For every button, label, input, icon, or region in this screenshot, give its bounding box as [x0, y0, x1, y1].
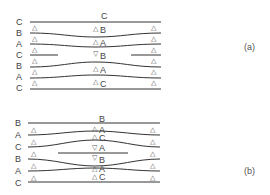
layer-label: B [15, 154, 21, 164]
triangle-down-icon: ▽ [92, 154, 98, 162]
triangle-up-icon: △ [31, 150, 37, 158]
triangle-up-icon: △ [150, 174, 156, 182]
triangle-up-icon: △ [31, 174, 37, 182]
triangle-up-icon: △ [92, 125, 98, 133]
center-letter: C [101, 11, 108, 21]
triangle-up-icon: △ [31, 126, 37, 134]
triangle-up-icon: △ [151, 57, 157, 65]
stacking-diagram: C B A C B A C △ △ △ △ △ △ △ △ △ △ △ [0, 0, 270, 195]
center-letter: B [99, 114, 105, 124]
figure-caption: (a) [244, 42, 255, 52]
layer-label: C [15, 178, 22, 188]
figure-b: B A C B A C △ △ △ △ △ △ △ △ △ △ B [15, 114, 255, 188]
triangle-up-icon: △ [92, 165, 98, 173]
triangle-up-icon: △ [92, 133, 98, 141]
layer-label: C [16, 50, 23, 60]
layer-label: A [15, 166, 21, 176]
layer-label: A [15, 130, 21, 140]
center-letter: A [100, 38, 106, 48]
triangle-up-icon: △ [151, 68, 157, 76]
triangle-up-icon: △ [151, 46, 157, 54]
triangle-up-icon: △ [32, 79, 38, 87]
center-letter: A [99, 143, 105, 153]
triangle-up-icon: △ [150, 162, 156, 170]
layer-label: B [16, 28, 22, 38]
triangle-up-icon: △ [150, 150, 156, 158]
center-letter: B [100, 25, 106, 35]
center-letter: C [100, 79, 107, 89]
layer-label: A [16, 39, 22, 49]
layer-label: B [16, 61, 22, 71]
layer-line [30, 33, 161, 37]
triangle-up-icon: △ [92, 173, 98, 181]
layer-label: B [15, 118, 21, 128]
center-letter: A [100, 65, 106, 75]
triangle-up-icon: △ [32, 46, 38, 54]
layer-label: C [16, 17, 23, 27]
triangle-up-icon: △ [93, 65, 99, 73]
triangle-up-icon: △ [32, 68, 38, 76]
triangle-up-icon: △ [32, 24, 38, 32]
layer-label: C [15, 142, 22, 152]
figure-caption: (b) [244, 166, 255, 176]
triangle-up-icon: △ [32, 57, 38, 65]
triangle-up-icon: △ [151, 35, 157, 43]
center-letter: C [99, 133, 106, 143]
triangle-up-icon: △ [32, 35, 38, 43]
triangle-up-icon: △ [150, 138, 156, 146]
triangle-up-icon: △ [150, 126, 156, 134]
triangle-up-icon: △ [151, 79, 157, 87]
layer-label: A [16, 72, 22, 82]
center-letter: B [100, 51, 106, 61]
triangle-down-icon: ▽ [93, 50, 99, 58]
triangle-up-icon: △ [93, 38, 99, 46]
triangle-up-icon: △ [93, 78, 99, 86]
center-letter: C [99, 172, 106, 182]
triangle-up-icon: △ [93, 25, 99, 33]
figure-a: C B A C B A C △ △ △ △ △ △ △ △ △ △ △ [16, 11, 255, 93]
triangle-down-icon: ▽ [92, 144, 98, 152]
triangle-up-icon: △ [31, 138, 37, 146]
layer-label: C [16, 83, 23, 93]
triangle-up-icon: △ [31, 162, 37, 170]
triangle-up-icon: △ [151, 24, 157, 32]
